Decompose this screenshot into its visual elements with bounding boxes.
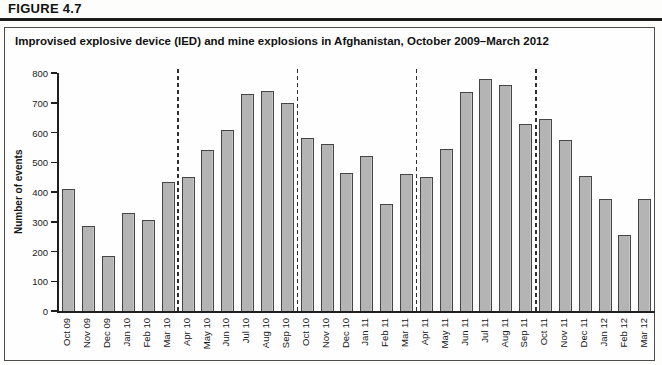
bar-slot <box>436 73 456 311</box>
x-tick-label: Jan 11 <box>360 318 370 346</box>
x-tick-label: Jul 11 <box>480 318 490 343</box>
bar-slot <box>635 73 655 311</box>
y-axis-tick-labels: 0100200300400500600700800 <box>5 28 53 328</box>
y-tick-label: 100 <box>32 276 48 287</box>
x-tick-label: Oct 09 <box>62 318 72 346</box>
y-tick-label: 400 <box>32 187 48 198</box>
x-tick-label: Jun 10 <box>221 318 231 347</box>
bar-slot <box>317 73 337 311</box>
x-tick-label: Apr 10 <box>182 318 192 346</box>
bars-row <box>59 73 655 311</box>
bar-slot <box>377 73 397 311</box>
bar-slot <box>59 73 79 311</box>
x-tick-label: Dec 09 <box>102 318 112 348</box>
x-axis-tick-labels: Oct 09Nov 09Dec 09Jan 10Feb 10Mar 10Apr … <box>57 316 653 365</box>
bar-slot <box>555 73 575 311</box>
bar-slot <box>357 73 377 311</box>
bar-feb-11 <box>380 204 393 311</box>
bar-oct-11 <box>539 119 552 311</box>
y-tick-mark <box>51 310 57 312</box>
y-tick-label: 200 <box>32 246 48 257</box>
bar-slot <box>536 73 556 311</box>
y-tick-label: 800 <box>32 68 48 79</box>
x-tick-label: Jul 10 <box>241 318 251 343</box>
x-tick-label: Jun 11 <box>460 318 470 346</box>
bar-slot <box>476 73 496 311</box>
bar-feb-10 <box>142 220 155 311</box>
period-separator-dashed-line <box>416 69 418 311</box>
bar-feb-12 <box>618 235 631 311</box>
x-tick-label: Feb 12 <box>619 318 629 348</box>
x-tick-label: Feb 10 <box>142 318 152 348</box>
x-tick-label: Sep 10 <box>281 318 291 348</box>
bar-nov-09 <box>82 226 95 311</box>
bar-slot <box>397 73 417 311</box>
x-tick-label: Sep 11 <box>519 318 529 347</box>
plot-area <box>57 73 655 313</box>
figure-panel: Improvised explosive device (IED) and mi… <box>4 27 655 361</box>
bar-dec-11 <box>579 176 592 311</box>
bar-slot <box>575 73 595 311</box>
y-tick-mark <box>51 251 57 253</box>
bar-slot <box>516 73 536 311</box>
bar-may-11 <box>440 149 453 311</box>
x-tick-label: Dec 11 <box>579 318 589 347</box>
bar-mar-11 <box>400 174 413 311</box>
bar-jun-11 <box>460 92 473 311</box>
figure-divider-rule <box>0 18 662 21</box>
x-tick-label: Jan 12 <box>599 318 609 347</box>
x-tick-label: Nov 09 <box>82 318 92 348</box>
bar-apr-10 <box>182 177 195 311</box>
bar-slot <box>178 73 198 311</box>
bar-slot <box>158 73 178 311</box>
x-tick-label: May 11 <box>440 318 450 348</box>
chart-title: Improvised explosive device (IED) and mi… <box>15 35 644 47</box>
bar-aug-11 <box>499 85 512 311</box>
y-tick-mark <box>51 191 57 193</box>
x-tick-label: Oct 10 <box>301 318 311 346</box>
bar-jan-10 <box>122 213 135 311</box>
bar-oct-09 <box>62 189 75 311</box>
bar-apr-11 <box>420 177 433 311</box>
x-tick-label: Mar 11 <box>400 318 410 347</box>
x-tick-label: Dec 10 <box>341 318 351 348</box>
bar-slot <box>138 73 158 311</box>
y-tick-mark <box>51 72 57 74</box>
y-tick-mark <box>51 221 57 223</box>
x-tick-label: Nov 10 <box>321 318 331 348</box>
bar-jul-10 <box>241 94 254 311</box>
y-tick-label: 0 <box>43 306 48 317</box>
bar-slot <box>416 73 436 311</box>
bar-slot <box>218 73 238 311</box>
x-tick-label: Aug 11 <box>500 318 510 347</box>
period-separator-dashed-line <box>297 69 299 311</box>
x-tick-label: Feb 11 <box>380 318 390 347</box>
x-tick-label: Nov 11 <box>559 318 569 347</box>
y-tick-label: 500 <box>32 157 48 168</box>
x-tick-label: Apr 11 <box>420 318 430 345</box>
bar-slot <box>79 73 99 311</box>
bar-oct-10 <box>301 138 314 311</box>
bar-dec-09 <box>102 256 115 311</box>
y-tick-mark <box>51 102 57 104</box>
bar-sep-10 <box>281 103 294 311</box>
x-tick-label: May 10 <box>202 318 212 349</box>
y-tick-label: 300 <box>32 216 48 227</box>
x-tick-label: Aug 10 <box>261 318 271 348</box>
bar-nov-11 <box>559 140 572 311</box>
bar-slot <box>238 73 258 311</box>
figure-number-label: FIGURE 4.7 <box>8 1 82 16</box>
bar-nov-10 <box>321 144 334 311</box>
period-separator-dashed-line <box>177 69 179 311</box>
bar-jun-10 <box>221 130 234 311</box>
bar-may-10 <box>201 150 214 311</box>
bar-slot <box>456 73 476 311</box>
y-tick-mark <box>51 162 57 164</box>
bar-slot <box>595 73 615 311</box>
bar-slot <box>119 73 139 311</box>
bar-dec-10 <box>340 173 353 311</box>
bar-jan-11 <box>360 156 373 311</box>
y-tick-label: 700 <box>32 97 48 108</box>
period-separator-dashed-line <box>535 69 537 311</box>
bar-slot <box>258 73 278 311</box>
